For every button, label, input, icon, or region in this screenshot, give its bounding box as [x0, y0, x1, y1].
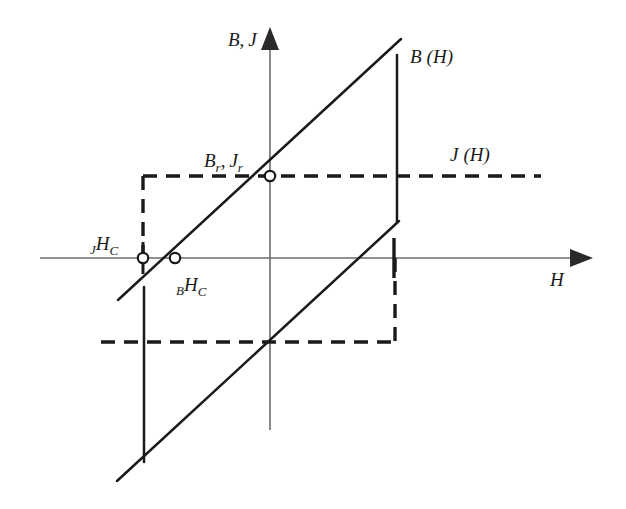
- vertical-axis-label-sep: ,: [240, 29, 245, 50]
- remanence-label-b: B: [204, 150, 216, 171]
- b-of-h-label-arg: (H): [427, 46, 453, 68]
- normal-coercivity-sub: C: [198, 284, 207, 299]
- vertical-axis-label: B,J: [228, 29, 258, 50]
- normal-coercivity-label: BHC: [176, 274, 207, 299]
- b-of-h-curve: [117, 39, 401, 481]
- j-of-h-label-arg: (H): [463, 144, 489, 166]
- b-of-h-label-letter: B: [410, 46, 422, 67]
- normal-coercivity-presub: B: [176, 283, 184, 298]
- b-of-h-curve-label: B(H): [410, 46, 453, 68]
- hysteresis-diagram: B,J H B(H) J(H) Br,Jr JHC BHC: [0, 0, 626, 509]
- horizontal-axis-arrowhead: [570, 249, 593, 267]
- intrinsic-coercivity-main: H: [95, 233, 111, 254]
- normal-coercivity-point-marker[interactable]: [170, 253, 180, 263]
- j-of-h-curve: [101, 176, 541, 342]
- normal-coercivity-main: H: [183, 274, 199, 295]
- intrinsic-coercivity-label: JHC: [90, 233, 119, 258]
- vertical-axis-label-b: B: [228, 29, 240, 50]
- intrinsic-coercivity-point-marker[interactable]: [138, 253, 148, 263]
- vertical-axis-arrowhead: [261, 27, 279, 50]
- b-lower-diagonal-segment: [117, 221, 399, 481]
- horizontal-axis-label: H: [549, 269, 565, 290]
- axes-group: [40, 27, 593, 430]
- remanence-point-marker[interactable]: [265, 171, 275, 181]
- remanence-label: Br,Jr: [204, 150, 244, 175]
- vertical-axis-label-j: J: [248, 29, 258, 50]
- intrinsic-coercivity-sub: C: [110, 243, 119, 258]
- j-of-h-curve-label: J(H): [450, 144, 490, 166]
- figure-container: B,J H B(H) J(H) Br,Jr JHC BHC: [0, 0, 626, 509]
- j-of-h-label-letter: J: [450, 144, 460, 165]
- remanence-label-comma: ,: [221, 150, 226, 171]
- remanence-label-j-sub: r: [238, 160, 244, 175]
- b-upper-diagonal-segment: [118, 39, 401, 300]
